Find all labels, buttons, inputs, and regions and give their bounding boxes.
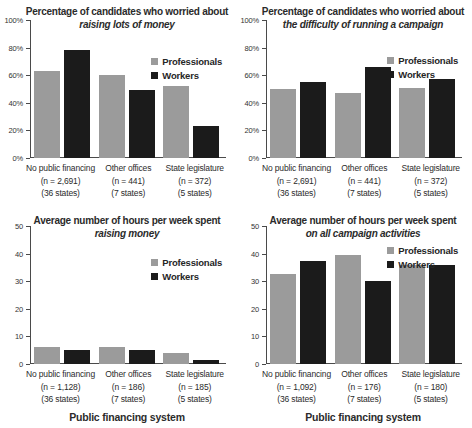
category-labels: No public financing(n = 1,128)(36 states… [26,368,228,406]
bar-professionals [99,347,125,364]
y-tick-label: 20 [15,304,23,313]
y-tick-label: 40% [9,98,23,107]
plot-area: ProfessionalsWorkers [266,20,460,158]
y-tick-label: 20 [251,304,259,313]
bar-workers [129,90,155,158]
category-n: (n = 1,092) [277,381,317,394]
legend-label: Professionals [162,56,222,67]
y-tick-label: 10 [251,332,259,341]
category-n: (n = 441) [112,175,145,188]
bar-professionals [335,255,361,364]
category-n: (n = 2,691) [41,175,81,188]
legend-item: Workers [151,70,198,81]
category-states: (5 states) [414,187,448,200]
legend-swatch-professionals [151,259,158,266]
x-axis-title: Public financing system [30,411,224,423]
category-name: State legislature [402,162,460,175]
legend-label: Workers [162,271,198,282]
category-label: Other offices(n = 441)(7 states) [95,162,162,200]
category-n: (n = 441) [348,175,381,188]
category-states: (36 states) [41,393,80,406]
legend-swatch-professionals [151,58,158,65]
bar-group [99,75,155,158]
y-tick-label: 0 [255,360,259,369]
bar-workers [429,265,455,364]
bar-group [335,255,391,364]
category-states: (5 states) [414,393,448,406]
bar-group [335,67,391,158]
chart-worried-raising-money: Percentage of candidates who worried abo… [0,0,236,214]
category-name: No public financing [26,368,95,381]
legend-label: Professionals [398,55,458,66]
y-tick-label: 40 [251,249,259,258]
category-states: (5 states) [178,187,212,200]
bar-professionals [34,71,60,158]
y-tick-mark [262,364,266,365]
bar-groups [31,226,222,364]
y-tick-label: 30 [251,277,259,286]
y-tick-label: 80% [9,43,23,52]
chart-title-line1: Percentage of candidates who worried abo… [262,5,464,18]
legend-swatch-workers [387,261,394,268]
bar-workers [300,261,326,365]
category-name: Other offices [105,368,151,381]
category-label: No public financing(n = 1,128)(36 states… [26,368,95,406]
bar-workers [429,79,455,158]
y-tick-label: 80% [245,43,259,52]
category-n: (n = 185) [178,381,211,394]
bar-group [399,79,455,158]
y-axis: 01020304050 [0,226,30,364]
y-axis: 01020304050 [236,226,266,364]
chart-hours-raising-money: Average number of hours per week spent r… [0,214,236,428]
category-name: No public financing [262,162,331,175]
figure-grid: Percentage of candidates who worried abo… [0,0,472,428]
category-label: No public financing(n = 2,691)(36 states… [26,162,95,200]
category-labels: No public financing(n = 2,691)(36 states… [262,162,464,200]
category-states: (36 states) [41,187,80,200]
legend-swatch-workers [387,71,394,78]
bar-group [163,353,219,364]
bar-workers [64,350,90,364]
category-label: No public financing(n = 1,092)(36 states… [262,368,331,406]
legend-swatch-workers [151,72,158,79]
y-tick-label: 50 [251,222,259,231]
y-tick-label: 50 [15,222,23,231]
bar-professionals [163,353,189,364]
y-tick-label: 20% [245,126,259,135]
bar-groups [267,20,458,158]
category-labels: No public financing(n = 2,691)(36 states… [26,162,228,200]
category-name: State legislature [402,368,460,381]
bar-professionals [399,88,425,158]
bar-professionals [270,89,296,158]
category-name: No public financing [262,368,331,381]
legend-label: Workers [162,70,198,81]
bar-group [399,265,455,364]
y-tick-mark [26,364,30,365]
legend: ProfessionalsWorkers [387,55,458,80]
legend-item: Professionals [387,245,458,256]
category-states: (7 states) [111,393,145,406]
y-tick-label: 40% [245,98,259,107]
y-tick-label: 60% [245,71,259,80]
category-label: Other offices(n = 176)(7 states) [331,368,398,406]
y-tick-label: 60% [9,71,23,80]
y-tick-label: 40 [15,249,23,258]
chart-hours-all-activities: Average number of hours per week spent o… [236,214,472,428]
category-label: State legislature(n = 185)(5 states) [162,368,229,406]
plot-area: ProfessionalsWorkers [266,226,460,364]
category-label: Other offices(n = 186)(7 states) [95,368,162,406]
y-tick-label: 0% [13,154,23,163]
category-n: (n = 2,691) [277,175,317,188]
bar-workers [365,67,391,158]
bar-professionals [399,265,425,364]
legend-item: Workers [151,271,198,282]
bar-professionals [335,93,361,158]
bar-professionals [163,86,189,158]
category-name: State legislature [166,162,224,175]
category-n: (n = 372) [178,175,211,188]
bar-workers [64,50,90,158]
category-label: State legislature(n = 372)(5 states) [398,162,465,200]
category-name: State legislature [166,368,224,381]
legend-item: Professionals [387,55,458,66]
chart-worried-campaign-difficulty: Percentage of candidates who worried abo… [236,0,472,214]
